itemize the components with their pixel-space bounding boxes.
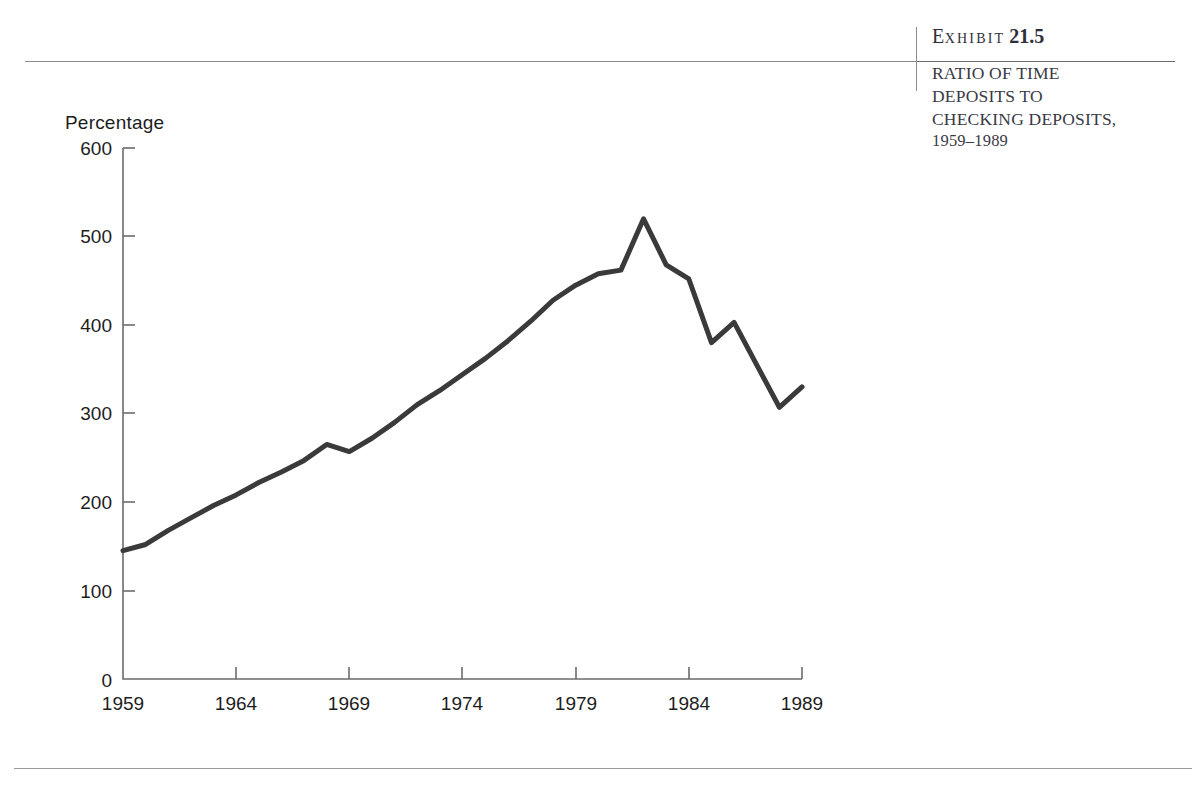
y-tick-label: 500	[80, 226, 112, 247]
exhibit-number-line: EXHIBIT21.5	[932, 24, 1188, 49]
caption-line-2: DEPOSITS TO	[932, 85, 1188, 108]
exhibit-label-lead: E	[932, 25, 945, 47]
y-tick-label: 300	[80, 403, 112, 424]
exhibit-title-block: EXHIBIT21.5 RATIO OF TIME DEPOSITS TO CH…	[932, 24, 1188, 152]
x-tick-label: 1979	[555, 693, 597, 714]
caption-line-3: CHECKING DEPOSITS,	[932, 108, 1188, 131]
y-tick-label: 400	[80, 315, 112, 336]
caption-line-4-years: 1959–1989	[932, 130, 1188, 151]
exhibit-number-value: 21.5	[1009, 25, 1044, 47]
data-series-line	[123, 219, 802, 551]
y-tick-label: 600	[80, 138, 112, 159]
x-tick-label: 1969	[328, 693, 370, 714]
top-horizontal-rule	[25, 61, 916, 62]
x-tick-label: 1959	[102, 693, 144, 714]
x-tick-label: 1989	[781, 693, 823, 714]
y-tick-marks	[123, 148, 135, 591]
title-vertical-rule	[916, 27, 917, 91]
x-tick-marks	[236, 667, 802, 679]
line-chart: 600 500 400 300 200 100 0	[0, 0, 900, 760]
y-tick-label: 0	[101, 670, 112, 691]
caption-line-1: RATIO OF TIME	[932, 62, 1188, 85]
x-tick-label: 1974	[441, 693, 484, 714]
exhibit-label-rest: XHIBIT	[945, 31, 1006, 46]
x-tick-label: 1964	[215, 693, 258, 714]
exhibit-caption: RATIO OF TIME DEPOSITS TO CHECKING DEPOS…	[932, 62, 1188, 152]
y-tick-label: 200	[80, 492, 112, 513]
bottom-horizontal-rule	[14, 768, 1192, 769]
y-axis-tick-labels: 600 500 400 300 200 100 0	[80, 138, 112, 691]
y-tick-label: 100	[80, 581, 112, 602]
axis-lines	[123, 148, 802, 679]
chart-container: Percentage 600 500 400 300 200 100 0	[0, 0, 900, 760]
x-axis-tick-labels: 1959 1964 1969 1974 1979 1984 1989	[102, 693, 823, 714]
x-tick-label: 1984	[668, 693, 711, 714]
